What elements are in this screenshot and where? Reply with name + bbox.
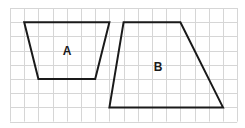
label-a: A <box>63 44 72 58</box>
label-b: B <box>154 60 163 74</box>
grid-diagram: A B <box>0 0 245 128</box>
